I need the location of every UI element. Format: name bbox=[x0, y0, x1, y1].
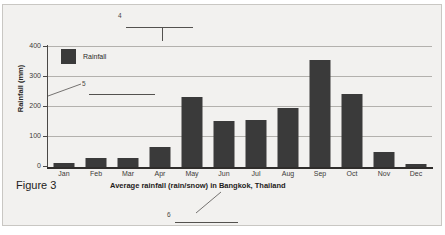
bar-may[interactable] bbox=[182, 97, 203, 167]
bar-oct[interactable] bbox=[342, 94, 363, 167]
x-tick-label-may: May bbox=[176, 170, 208, 177]
bar-mar[interactable] bbox=[118, 158, 139, 167]
bar-feb[interactable] bbox=[86, 158, 107, 167]
bar-sep[interactable] bbox=[310, 60, 331, 167]
bar-slot-jan bbox=[48, 45, 80, 167]
annotation-4-label: 4 bbox=[118, 12, 122, 19]
x-tick-label-sep: Sep bbox=[304, 170, 336, 177]
bar-aug[interactable] bbox=[278, 108, 299, 168]
y-tick-100 bbox=[43, 136, 47, 137]
annotation-6-label: 6 bbox=[167, 211, 171, 218]
figure-caption: Figure 3 bbox=[16, 179, 56, 191]
bar-slot-dec bbox=[400, 45, 432, 167]
y-tick-200 bbox=[43, 106, 47, 107]
y-tick-label-200: 200 bbox=[19, 102, 41, 109]
x-axis-line bbox=[47, 167, 433, 169]
y-tick-400 bbox=[43, 46, 47, 47]
bar-nov[interactable] bbox=[374, 152, 395, 167]
bar-dec[interactable] bbox=[406, 164, 427, 167]
bar-slot-apr bbox=[144, 45, 176, 167]
figure-screenshot: 4 Rainfall (mm) 400 300 200 100 0 Rainfa… bbox=[0, 0, 445, 235]
annotation-6-diagonal-line bbox=[196, 192, 226, 214]
y-tick-label-300: 300 bbox=[19, 72, 41, 79]
bar-jan[interactable] bbox=[54, 163, 75, 167]
y-tick-label-0: 0 bbox=[19, 162, 41, 169]
bar-slot-aug bbox=[272, 45, 304, 167]
y-tick-0 bbox=[43, 166, 47, 167]
x-tick-label-nov: Nov bbox=[368, 170, 400, 177]
x-tick-label-mar: Mar bbox=[112, 170, 144, 177]
x-tick-label-jan: Jan bbox=[48, 170, 80, 177]
bar-slot-may bbox=[176, 45, 208, 167]
bar-slot-feb bbox=[80, 45, 112, 167]
bar-slot-sep bbox=[304, 45, 336, 167]
bar-slot-oct bbox=[336, 45, 368, 167]
x-tick-label-apr: Apr bbox=[144, 170, 176, 177]
chart-title: Average rainfall (rain/snow) in Bangkok,… bbox=[110, 181, 286, 190]
x-tick-label-oct: Oct bbox=[336, 170, 368, 177]
x-tick-label-dec: Dec bbox=[400, 170, 432, 177]
bar-jul[interactable] bbox=[246, 120, 267, 167]
bar-apr[interactable] bbox=[150, 147, 171, 167]
bar-jun[interactable] bbox=[214, 121, 235, 167]
bar-slot-jul bbox=[240, 45, 272, 167]
x-tick-label-feb: Feb bbox=[80, 170, 112, 177]
x-tick-label-jul: Jul bbox=[240, 170, 272, 177]
y-tick-300 bbox=[43, 76, 47, 77]
annotation-4-rule bbox=[126, 27, 193, 28]
y-axis-title: Rainfall (mm) bbox=[16, 49, 25, 129]
x-tick-label-aug: Aug bbox=[272, 170, 304, 177]
bar-slot-nov bbox=[368, 45, 400, 167]
y-tick-label-400: 400 bbox=[19, 42, 41, 49]
bar-series-rainfall bbox=[48, 45, 432, 167]
bar-slot-mar bbox=[112, 45, 144, 167]
y-tick-label-100: 100 bbox=[19, 132, 41, 139]
bar-slot-jun bbox=[208, 45, 240, 167]
annotation-6-rule bbox=[175, 222, 238, 223]
x-tick-label-jun: Jun bbox=[208, 170, 240, 177]
annotation-4-leader-line bbox=[162, 27, 163, 41]
